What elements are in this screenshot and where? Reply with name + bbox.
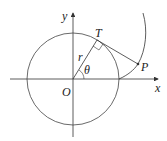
point-p-label: P — [140, 60, 149, 74]
x-axis-label: x — [154, 81, 161, 95]
theta-label: θ — [84, 63, 90, 77]
radius-label: r — [78, 50, 83, 64]
right-angle-mark — [93, 44, 103, 50]
involute-diagram: y x O T P r θ — [0, 0, 167, 141]
tangent-line — [97, 40, 138, 64]
origin-label: O — [62, 85, 71, 99]
point-t-label: T — [95, 26, 103, 40]
y-axis-label: y — [61, 9, 68, 23]
point-p — [137, 63, 140, 66]
